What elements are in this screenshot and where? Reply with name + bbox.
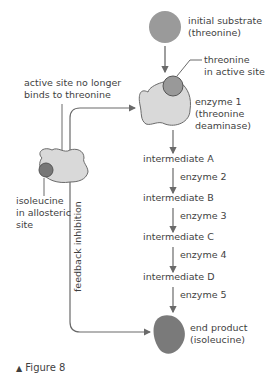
triangle-icon: ▲: [16, 364, 22, 373]
end-product-label: end product(isoleucine): [190, 322, 247, 346]
figure-caption: ▲ Figure 8: [16, 362, 65, 375]
allosteric-label: isoleucinein allostericsite: [16, 195, 71, 231]
initial-substrate-label: initial substrate(threonine): [188, 15, 262, 39]
intermediate-b: intermediate B: [143, 192, 214, 204]
enzyme1-label: enzyme 1(threoninedeaminase): [195, 96, 251, 132]
threonine-active-site-label: threoninein active site: [204, 54, 265, 78]
isoleucine-bound: [39, 163, 53, 177]
enzyme-2: enzyme 2: [180, 171, 227, 183]
feedback-label: feedback inhibition: [72, 201, 83, 292]
enzyme-3: enzyme 3: [180, 210, 227, 222]
enzyme-5: enzyme 5: [180, 289, 227, 301]
intermediate-a: intermediate A: [143, 153, 214, 165]
enzyme-4: enzyme 4: [180, 249, 227, 261]
intermediate-d: intermediate D: [143, 271, 214, 283]
substrate-circle: [149, 11, 181, 43]
intermediate-c: intermediate C: [143, 231, 214, 243]
threonine-bound: [163, 76, 183, 96]
product-shape: [154, 315, 185, 353]
inactive-site-label: active site no longerbinds to threonine: [24, 77, 121, 101]
